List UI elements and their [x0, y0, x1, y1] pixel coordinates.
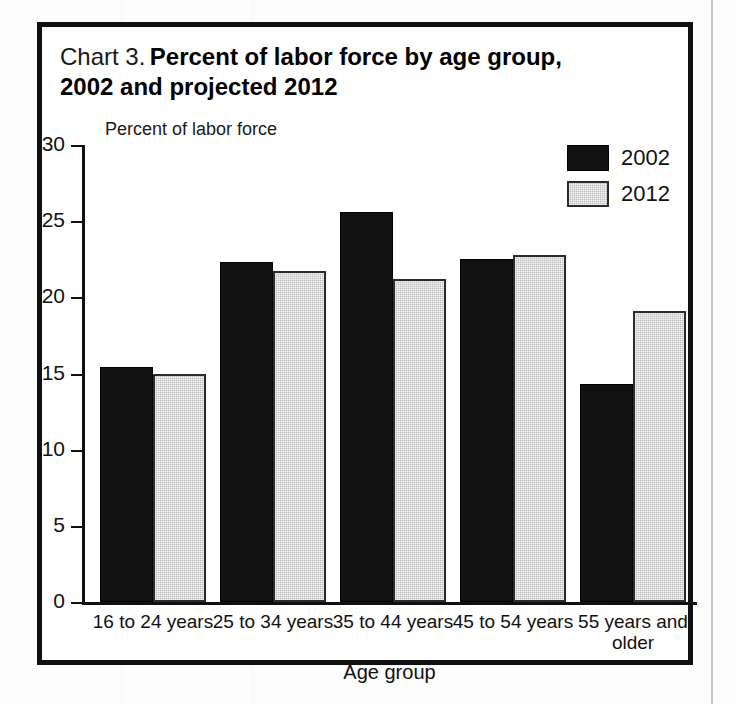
bar-2002-3 — [340, 212, 393, 602]
x-axis-line — [82, 602, 697, 605]
chart-title-main: Percent of labor force by age group, — [150, 43, 562, 70]
y-tick-mark: 0 — [71, 602, 82, 604]
x-category-label-line: 45 to 54 years — [448, 611, 578, 632]
y-tick-mark: 30 — [71, 145, 82, 147]
x-category-label-2: 25 to 34 years — [208, 611, 338, 632]
chart-title-prefix: Chart 3. — [60, 43, 145, 70]
bar-2002-4 — [460, 259, 513, 602]
chart-title: Chart 3. Percent of labor force by age g… — [60, 43, 670, 102]
legend-label-2012: 2012 — [621, 181, 670, 207]
y-tick-label: 10 — [42, 437, 65, 461]
bar-2002-2 — [220, 262, 273, 602]
y-tick-label: 15 — [42, 361, 65, 385]
x-category-label-line: older — [568, 632, 698, 653]
y-tick-label: 0 — [53, 589, 65, 613]
legend-item-2012: 2012 — [567, 181, 670, 207]
bar-2012-2 — [273, 271, 326, 602]
bar-2012-4 — [513, 255, 566, 602]
chart-title-line2: 2002 and projected 2012 — [60, 73, 670, 101]
x-category-label-line: 16 to 24 years — [88, 611, 218, 632]
y-tick-label: 25 — [42, 208, 65, 232]
chart-legend: 20022012 — [567, 145, 670, 217]
chart-figure-box: Chart 3. Percent of labor force by age g… — [37, 22, 693, 665]
y-tick-label: 30 — [42, 132, 65, 156]
legend-swatch-2002 — [567, 145, 609, 171]
x-axis-title: Age group — [82, 661, 697, 684]
x-category-label-line: 55 years and — [568, 611, 698, 632]
y-tick-mark: 15 — [71, 374, 82, 376]
x-category-label-line: 35 to 44 years — [328, 611, 458, 632]
bar-2002-5 — [580, 384, 633, 602]
x-category-label-line: 25 to 34 years — [208, 611, 338, 632]
bar-2012-3 — [393, 279, 446, 602]
y-tick-label: 20 — [42, 284, 65, 308]
y-tick-mark: 25 — [71, 221, 82, 223]
y-tick-label: 5 — [53, 513, 65, 537]
x-category-label-3: 35 to 44 years — [328, 611, 458, 632]
legend-item-2002: 2002 — [567, 145, 670, 171]
y-tick-mark: 20 — [71, 297, 82, 299]
legend-label-2002: 2002 — [621, 145, 670, 171]
bar-2002-1 — [100, 367, 153, 602]
x-category-label-5: 55 years andolder — [568, 611, 698, 654]
y-tick-mark: 10 — [71, 450, 82, 452]
bar-2012-5 — [633, 311, 686, 602]
y-axis-line — [82, 145, 85, 602]
y-tick-mark: 5 — [71, 526, 82, 528]
x-category-label-1: 16 to 24 years — [88, 611, 218, 632]
x-category-label-4: 45 to 54 years — [448, 611, 578, 632]
y-axis-title: Percent of labor force — [105, 119, 277, 140]
page-edge-line — [711, 0, 713, 704]
legend-swatch-2012 — [567, 181, 609, 207]
bar-2012-1 — [153, 374, 206, 603]
